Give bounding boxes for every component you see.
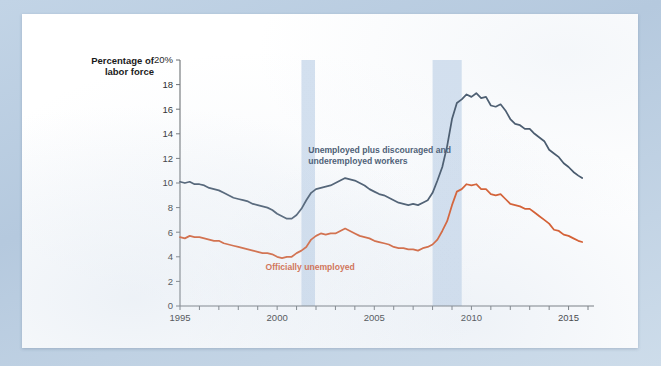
red-series-label: Officially unemployed [265, 262, 354, 272]
y-tick-label: 14 [162, 128, 173, 139]
y-tick-label: 20% [154, 54, 174, 65]
x-tick-label: 2005 [364, 312, 385, 323]
y-tick-label: 2 [168, 276, 173, 287]
y-tick-label: 18 [162, 79, 173, 90]
unemployment-line-chart: 02468101214161820%19952000200520102015Pe… [22, 14, 638, 348]
y-axis-title: Percentage of [91, 55, 155, 66]
blue-series-label: Unemployed plus discouraged and [308, 145, 451, 155]
y-tick-label: 8 [168, 202, 173, 213]
y-tick-label: 0 [168, 300, 173, 311]
y-tick-label: 12 [162, 153, 173, 164]
x-tick-label: 1995 [169, 312, 190, 323]
blue-series-label-line2: underemployed workers [308, 156, 408, 166]
y-tick-label: 6 [168, 227, 173, 238]
x-tick-label: 2010 [461, 312, 482, 323]
y-tick-label: 4 [168, 251, 173, 262]
y-tick-label: 16 [162, 104, 173, 115]
screenshot-page: 02468101214161820%19952000200520102015Pe… [0, 0, 661, 366]
chart-card: 02468101214161820%19952000200520102015Pe… [22, 14, 638, 348]
y-tick-label: 10 [162, 177, 173, 188]
x-tick-label: 2015 [558, 312, 579, 323]
x-tick-label: 2000 [267, 312, 288, 323]
y-axis-title-line2: labor force [105, 66, 154, 77]
